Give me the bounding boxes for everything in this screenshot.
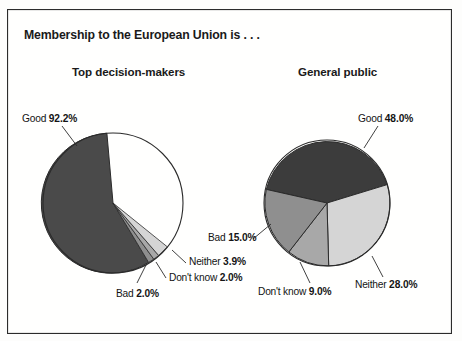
leader-line-left-neither (172, 250, 186, 263)
pie-label-left-bad-value: 2.0% (136, 288, 159, 299)
pie-label-right-neither: Neither 28.0% (355, 279, 417, 290)
pie-label-left-dont-know-value: 2.0% (220, 272, 243, 283)
pie-label-right-neither-name: Neither (355, 279, 386, 290)
pie-label-right-bad: Bad 15.0% (208, 232, 257, 243)
pie-chart-general-public (253, 126, 390, 283)
pie-label-right-good: Good 48.0% (358, 113, 413, 124)
pie-label-right-neither-value: 28.0% (389, 279, 417, 290)
pie-label-right-bad-value: 15.0% (228, 232, 256, 243)
pie-label-left-good-name: Good (22, 113, 46, 124)
pie-label-right-dont-know: Don't know 9.0% (258, 286, 332, 297)
pie-slice-left-good (41, 133, 148, 273)
pie-label-right-dont-know-value: 9.0% (309, 286, 332, 297)
pie-label-right-good-name: Good (358, 113, 382, 124)
pie-label-left-dont-know: Don't know 2.0% (169, 272, 243, 283)
pie-chart-top-decision-makers (41, 126, 186, 283)
pie-label-right-dont-know-name: Don't know (258, 286, 306, 297)
pie-label-right-good-value: 48.0% (385, 113, 413, 124)
pie-label-right-bad-name: Bad (208, 232, 226, 243)
pie-label-left-neither-value: 3.9% (223, 256, 246, 267)
pie-label-left-good-value: 92.2% (49, 113, 77, 124)
leader-line-right-dont-know (300, 262, 310, 283)
leader-line-right-neither (372, 256, 383, 277)
leader-line-left-dont-know (156, 262, 166, 278)
pie-label-left-neither: Neither 3.9% (189, 256, 246, 267)
pie-label-left-bad: Bad 2.0% (116, 288, 159, 299)
pie-label-left-neither-name: Neither (189, 256, 220, 267)
figure-panel: Membership to the European Union is . . … (0, 0, 462, 341)
pie-label-left-dont-know-name: Don't know (169, 272, 217, 283)
leader-line-left-good (62, 126, 77, 146)
pie-label-left-bad-name: Bad (116, 288, 134, 299)
leader-line-right-good (364, 126, 378, 148)
pie-label-left-good: Good 92.2% (22, 113, 77, 124)
